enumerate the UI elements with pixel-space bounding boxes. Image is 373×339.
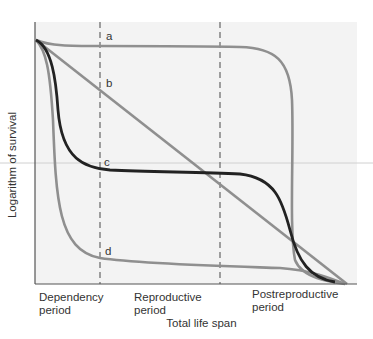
period-postreproductive: Postreproductive period [252,288,338,314]
y-axis-label-text: Logarithm of survival [6,112,18,218]
curve-label-d: d [105,245,111,257]
survivorship-chart: a b c d Logarithm of survival Dependency… [0,0,373,339]
plot-area [35,22,357,284]
period-dependency: Dependency period [39,291,104,317]
y-axis-label: Logarithm of survival [2,90,22,240]
period-dependency-line2: period [39,304,104,317]
period-dependency-line1: Dependency [39,291,104,304]
period-reproductive-line1: Reproductive [134,291,202,304]
curve-label-c: c [104,156,110,168]
period-postreproductive-line2: period [252,301,338,314]
curve-label-a: a [106,30,113,42]
curve-label-b: b [106,77,112,89]
period-reproductive: Reproductive period [134,291,202,317]
period-reproductive-line2: period [134,304,202,317]
x-axis-label: Total life span [0,317,373,329]
period-postreproductive-line1: Postreproductive [252,288,338,301]
